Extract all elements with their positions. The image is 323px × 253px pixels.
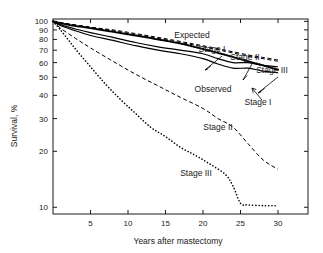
y-tick-label: 70 — [39, 46, 48, 55]
y-axis-title: Survival, % — [9, 104, 19, 147]
annotation-stage2_lo: Stage II — [203, 122, 232, 132]
y-tick-label: 60 — [39, 59, 48, 68]
annotation-stage3_up: Stage III — [256, 65, 288, 75]
annotation-observed: Observed — [195, 84, 232, 94]
data-curves — [53, 21, 278, 205]
annotation-stage1_up: Stage I — [199, 44, 226, 54]
leader-line — [243, 64, 252, 80]
x-axis-title: Years after mastectomy — [134, 236, 224, 246]
x-tick-label: 15 — [161, 219, 170, 228]
x-tick-label: 10 — [124, 219, 133, 228]
annotation-expected: Expected — [174, 30, 210, 40]
y-tick-label: 40 — [39, 91, 48, 100]
y-tick-label: 30 — [39, 115, 48, 124]
x-tick-label: 30 — [274, 219, 283, 228]
y-tick-label: 20 — [39, 147, 48, 156]
leader-arrowhead — [205, 66, 211, 70]
y-tick-label: 50 — [39, 73, 48, 82]
y-tick-label: 10 — [39, 203, 48, 212]
annotation-stage3_lo: Stage III — [180, 168, 212, 178]
survival-chart: 100908070605040302010 51015202530 Expect… — [0, 0, 323, 253]
figure-container: 100908070605040302010 51015202530 Expect… — [0, 0, 323, 253]
y-tick-label: 90 — [39, 26, 48, 35]
x-tick-label: 20 — [199, 219, 208, 228]
annotation-stage2_up: Stage II — [230, 52, 259, 62]
x-tick-label: 25 — [236, 219, 245, 228]
x-tick-label: 5 — [88, 219, 93, 228]
y-tick-label: 80 — [39, 35, 48, 44]
series-line — [53, 21, 278, 169]
leader-arrowhead — [258, 88, 265, 93]
annotation-stage1_lo: Stage I — [245, 97, 272, 107]
series-line — [53, 21, 278, 205]
y-axis-ticks: 100908070605040302010 — [35, 17, 308, 212]
series-line — [53, 21, 278, 72]
